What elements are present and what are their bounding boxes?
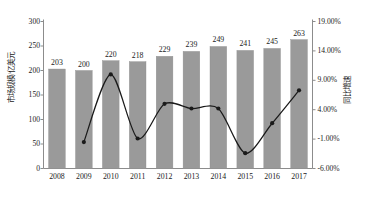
line-data-point bbox=[243, 151, 247, 155]
bar bbox=[102, 61, 119, 169]
y-axis-right-tick: -6.00% bbox=[318, 164, 360, 173]
y-axis-left-tick: 200 bbox=[14, 66, 40, 75]
y-axis-right-tick: 14.00% bbox=[318, 46, 360, 55]
chart-container: 市场规模/亿美元 同比增速 050100150200250300-6.00%-1… bbox=[0, 0, 370, 200]
y-axis-right-tick: -1.00% bbox=[318, 134, 360, 143]
line-data-point bbox=[270, 121, 274, 125]
line-data-point bbox=[297, 88, 301, 92]
bar bbox=[291, 40, 308, 169]
y-axis-left-tick: 250 bbox=[14, 41, 40, 50]
line-data-point bbox=[162, 102, 166, 106]
y-axis-left-tick: 100 bbox=[14, 115, 40, 124]
x-axis-tick-2017: 2017 bbox=[283, 172, 315, 181]
line-data-point bbox=[136, 136, 140, 140]
bar-value-label: 263 bbox=[283, 29, 315, 38]
line-data-point bbox=[109, 72, 113, 76]
line-data-point bbox=[189, 106, 193, 110]
y-axis-right-tick: 9.00% bbox=[318, 75, 360, 84]
bar bbox=[129, 62, 146, 169]
y-axis-left-tick: 300 bbox=[14, 17, 40, 26]
bar bbox=[76, 71, 93, 169]
y-axis-right-tick: 4.00% bbox=[318, 105, 360, 114]
y-axis-right-tick: 19.00% bbox=[318, 17, 360, 26]
bar-value-label: 245 bbox=[256, 37, 288, 46]
bar bbox=[264, 48, 281, 168]
y-axis-left-tick: 0 bbox=[14, 164, 40, 173]
bar-value-label: 200 bbox=[68, 60, 100, 69]
bar bbox=[156, 56, 173, 168]
y-axis-left-tick: 150 bbox=[14, 90, 40, 99]
line-data-point bbox=[82, 140, 86, 144]
bar bbox=[49, 69, 66, 168]
y-axis-left-tick: 50 bbox=[14, 139, 40, 148]
line-data-point bbox=[216, 106, 220, 110]
